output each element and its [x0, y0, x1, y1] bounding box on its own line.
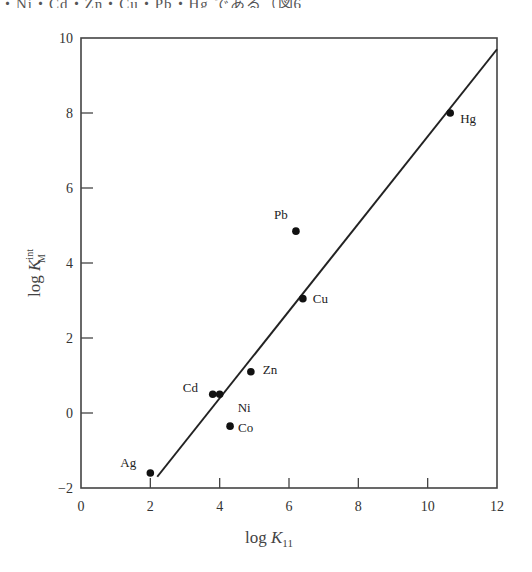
x-tick-label: 4 — [216, 499, 223, 514]
x-tick-label: 0 — [78, 499, 85, 514]
y-tick-label: −2 — [58, 481, 73, 496]
y-tick-label: 0 — [66, 406, 73, 421]
point-label-cu: Cu — [313, 291, 329, 306]
point-label-ag: Ag — [120, 455, 136, 470]
point-label-co: Co — [238, 420, 253, 435]
data-point-co — [226, 422, 234, 430]
svg-text:log KintM: log KintM — [24, 249, 47, 297]
y-tick-label: 10 — [59, 31, 73, 46]
y-tick-label: 6 — [66, 181, 73, 196]
data-point-ni — [216, 390, 224, 398]
data-point-pb — [292, 227, 300, 235]
data-point-cd — [209, 390, 217, 398]
regression-line — [157, 49, 497, 477]
y-tick-label: 2 — [66, 331, 73, 346]
plot-frame — [81, 38, 497, 488]
scatter-chart: 024681012−20246810AgCdNiCoZnPbCuHglog K1… — [0, 0, 532, 572]
x-tick-label: 10 — [421, 499, 435, 514]
data-point-hg — [446, 109, 454, 117]
x-tick-label: 6 — [286, 499, 293, 514]
point-label-hg: Hg — [460, 111, 476, 126]
data-point-zn — [247, 368, 255, 376]
x-tick-label: 2 — [147, 499, 154, 514]
data-point-ag — [147, 469, 155, 477]
x-tick-label: 8 — [355, 499, 362, 514]
data-point-cu — [299, 295, 307, 303]
y-axis-title: log KintM — [24, 249, 47, 297]
point-label-ni: Ni — [238, 400, 251, 415]
x-tick-label: 12 — [490, 499, 504, 514]
point-label-zn: Zn — [263, 362, 278, 377]
y-tick-label: 4 — [66, 256, 73, 271]
point-label-cd: Cd — [183, 380, 199, 395]
x-axis-title: log K11 — [245, 528, 293, 549]
y-tick-label: 8 — [66, 106, 73, 121]
point-label-pb: Pb — [274, 207, 288, 222]
